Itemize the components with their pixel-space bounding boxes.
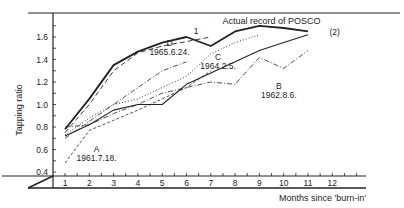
x-tick-label: 5 [160,178,165,188]
chart-annotation: 1964.2.5. [200,61,235,71]
x-tick-label: 1 [63,178,68,188]
series-line [65,26,308,130]
x-tick-label: 9 [257,178,262,188]
chart-annotation: 1962.8.6. [261,90,296,100]
y-axis-label: Tapping ratio [14,84,24,136]
x-tick-label: 10 [279,178,289,188]
x-tick-label: 6 [184,178,189,188]
chart-annotation: 1 [194,26,199,36]
x-tick-label: 8 [233,178,238,188]
x-axis-label: Months since 'burn-in' [279,193,366,203]
tapping-ratio-chart: 0.40.60.81.01.21.41.6 123456789101112 Ac… [0,0,404,208]
chart-annotation: (2) [330,27,341,37]
y-tick-label: 0.4 [36,167,48,177]
y-tick-label: 1.6 [36,32,48,42]
chart-annotation: Actual record of POSCO [223,16,321,26]
chart-annotation: 1961.7.18. [76,153,116,163]
chart-frame [2,13,400,188]
x-tick-label: 3 [111,178,116,188]
x-tick-label: 7 [208,178,213,188]
y-tick-label: 0.8 [36,122,48,132]
x-tick-label: 4 [136,178,141,188]
x-axis-ticks: 123456789101112 [63,173,357,188]
series-line [65,71,211,163]
y-tick-label: 0.6 [36,145,48,155]
x-tick-label: 12 [328,178,338,188]
chart-annotation: 1965.6.24. [149,47,189,57]
x-tick-label: 11 [304,178,313,188]
y-tick-label: 1.0 [36,100,48,110]
y-tick-label: 1.2 [36,77,48,87]
y-tick-label: 1.4 [36,55,48,65]
x-tick-label: 2 [87,178,92,188]
